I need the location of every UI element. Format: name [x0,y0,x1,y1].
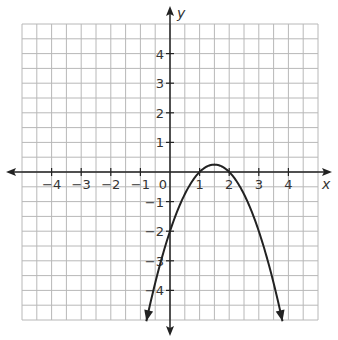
x-axis-label: x [321,176,331,192]
x-tick-label: −3 [72,177,91,192]
y-tick-label: 2 [156,106,164,121]
y-tick-label: 4 [156,47,164,62]
x-tick-label: 1 [195,177,203,192]
x-tick-label: 3 [255,177,263,192]
x-tick-label: 4 [284,177,292,192]
x-tick-label: −1 [131,177,150,192]
axes [6,6,332,336]
y-tick-label: 1 [156,135,164,150]
x-tick-label: −4 [42,177,61,192]
x-tick-label: −2 [101,177,120,192]
y-tick-label: −2 [145,224,164,239]
x-tick-label: 2 [225,177,233,192]
origin-label: 0 [159,177,167,192]
y-tick-label: −1 [145,195,164,210]
y-axis-label: y [176,5,186,21]
curve-left-arrow-icon [144,309,153,321]
y-tick-label: 3 [156,76,164,91]
parabola-graph: −4−3−2−1123404321−1−2−3−4 x y [0,0,338,340]
curve-right-arrow-icon [276,309,285,321]
